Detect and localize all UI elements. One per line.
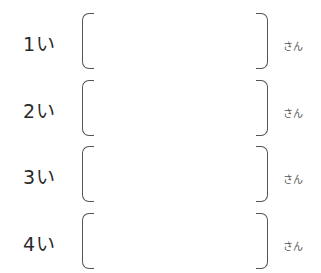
unit-label: さん: [283, 105, 303, 120]
question-label: 4い: [23, 229, 56, 256]
answer-field[interactable]: [95, 82, 255, 134]
question-label: 2い: [23, 96, 56, 123]
question-label: 1い: [23, 29, 56, 56]
question-label: 3い: [23, 162, 56, 189]
left-bracket-icon: [82, 13, 94, 69]
question-row-2: 2い さん: [0, 80, 321, 138]
left-bracket-icon: [82, 213, 94, 269]
unit-label: さん: [283, 38, 303, 53]
question-row-4: 4い さん: [0, 213, 321, 271]
right-bracket-icon: [256, 80, 268, 136]
right-bracket-icon: [256, 146, 268, 202]
right-bracket-icon: [256, 213, 268, 269]
unit-label: さん: [283, 171, 303, 186]
question-row-1: 1い さん: [0, 13, 321, 71]
right-bracket-icon: [256, 13, 268, 69]
unit-label: さん: [283, 238, 303, 253]
answer-field[interactable]: [95, 215, 255, 267]
question-row-3: 3い さん: [0, 146, 321, 204]
answer-field[interactable]: [95, 148, 255, 200]
left-bracket-icon: [82, 146, 94, 202]
left-bracket-icon: [82, 80, 94, 136]
answer-field[interactable]: [95, 15, 255, 67]
